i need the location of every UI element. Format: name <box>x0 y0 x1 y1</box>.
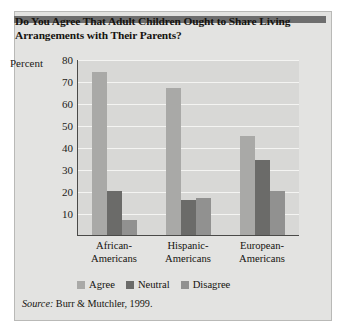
x-category-label-line: European- <box>225 240 299 253</box>
legend-swatch <box>126 281 134 289</box>
bar-group <box>92 60 137 235</box>
plot-area <box>77 60 299 236</box>
x-axis-category-labels: African-AmericansHispanic-AmericansEurop… <box>77 240 299 265</box>
y-tick-label: 70 <box>51 76 73 88</box>
legend-label: Agree <box>89 279 115 290</box>
x-category-label: African-Americans <box>77 240 151 265</box>
plot-background <box>77 60 299 236</box>
bar-agree <box>92 72 107 235</box>
y-tick-label: 10 <box>51 208 73 220</box>
bar-group <box>166 60 211 235</box>
x-category-label-line: African- <box>77 240 151 253</box>
x-category-label-line: Hispanic- <box>151 240 225 253</box>
bar-agree <box>240 136 255 235</box>
bar-agree <box>166 88 181 235</box>
y-axis-title: Percent <box>10 57 43 69</box>
x-category-label: Hispanic-Americans <box>151 240 225 265</box>
figure-title: Do You Agree That Adult Children Ought t… <box>15 14 305 42</box>
bar-group <box>240 60 285 235</box>
bar-disagree <box>122 220 137 235</box>
legend-swatch <box>77 281 85 289</box>
y-tick-label: 60 <box>51 98 73 110</box>
x-category-label-line: Americans <box>225 253 299 266</box>
bar-neutral <box>181 200 196 235</box>
legend-swatch <box>181 281 189 289</box>
y-tick-label: 30 <box>51 164 73 176</box>
x-category-label-line: Americans <box>77 253 151 266</box>
y-tick-label: 50 <box>51 120 73 132</box>
legend-item-agree[interactable]: Agree <box>77 279 115 290</box>
bar-neutral <box>255 160 270 235</box>
bar-neutral <box>107 191 122 235</box>
legend-label: Disagree <box>193 279 231 290</box>
x-category-label-line: Americans <box>151 253 225 266</box>
y-tick-label: 20 <box>51 186 73 198</box>
chart-legend: AgreeNeutralDisagree <box>77 279 307 290</box>
bar-disagree <box>270 191 285 235</box>
y-tick-label: 80 <box>51 54 73 66</box>
bar-disagree <box>196 198 211 235</box>
legend-item-disagree[interactable]: Disagree <box>181 279 231 290</box>
y-tick-label: 40 <box>51 142 73 154</box>
bar-groups <box>78 60 299 235</box>
source-label: Source: <box>22 298 53 309</box>
source-text: Burr & Mutchler, 1999. <box>56 298 153 309</box>
legend-label: Neutral <box>138 279 170 290</box>
source-note: Source: Burr & Mutchler, 1999. <box>22 298 153 309</box>
y-axis-tick-labels: 8070605040302010 <box>49 60 73 236</box>
x-category-label: European-Americans <box>225 240 299 265</box>
legend-item-neutral[interactable]: Neutral <box>126 279 170 290</box>
